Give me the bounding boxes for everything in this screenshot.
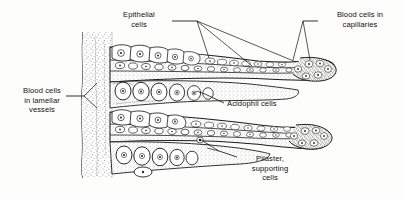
label-lamellar-line3: vessels — [6, 105, 78, 115]
label-blood-cells-in-capillaries: Blood cells in capillaries — [320, 10, 400, 29]
label-blood-cells-in-lamellar-vessels: Blood cells in lamellar vessels — [6, 86, 78, 115]
label-epithelial-cells: Epithelial cells — [108, 10, 170, 29]
label-pilaster-line1: Pilaster, — [238, 154, 302, 164]
label-lamellar-line2: in lamellar — [6, 96, 78, 106]
label-acidophil-cells: Acidophil cells — [227, 99, 309, 109]
figure-container: Epithelial cells Blood cells in capillar… — [0, 0, 403, 199]
label-pilaster-line3: cells — [238, 173, 302, 183]
label-capillaries-line1: Blood cells in — [320, 10, 400, 20]
lower-lamella-tip — [289, 124, 332, 149]
upper-lamella — [110, 45, 336, 82]
leader-blood-capillaries — [293, 21, 318, 60]
label-pilaster-line2: supporting — [238, 164, 302, 174]
label-acidophil-line1: Acidophil cells — [227, 99, 309, 109]
label-lamellar-line1: Blood cells — [6, 86, 78, 96]
label-epithelial-line2: cells — [108, 20, 170, 30]
filament-shaft — [81, 32, 112, 178]
label-pilaster-supporting-cells: Pilaster, supporting cells — [238, 154, 302, 183]
label-epithelial-line1: Epithelial — [108, 10, 170, 20]
label-capillaries-line2: capillaries — [320, 20, 400, 30]
